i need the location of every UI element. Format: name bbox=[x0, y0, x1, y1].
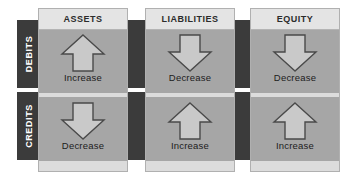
row-label-credits-text: CREDITS bbox=[24, 104, 34, 148]
column-footer-assets bbox=[39, 161, 127, 171]
arrow-down-icon bbox=[60, 101, 106, 141]
arrow-up-icon bbox=[60, 33, 106, 73]
column-header-assets: ASSETS bbox=[39, 9, 127, 30]
cell-assets-credit: Decrease bbox=[39, 97, 127, 161]
column-header-equity: EQUITY bbox=[251, 9, 339, 30]
column-assets: ASSETS Increase Decrease bbox=[38, 8, 128, 172]
column-header-liabilities: LIABILITIES bbox=[146, 9, 234, 30]
debits-credits-chart: DEBITS CREDITS ASSETS Increase Decrease bbox=[0, 0, 347, 180]
cell-label-assets-credit: Decrease bbox=[62, 140, 104, 151]
column-footer-liabilities bbox=[146, 161, 234, 171]
column-liabilities: LIABILITIES Decrease Increase bbox=[145, 8, 235, 172]
row-label-debits-text: DEBITS bbox=[24, 36, 34, 73]
cell-equity-debit: Decrease bbox=[251, 30, 339, 93]
column-footer-equity bbox=[251, 161, 339, 171]
arrow-up-icon bbox=[167, 101, 213, 141]
cell-liabilities-credit: Increase bbox=[146, 97, 234, 161]
cell-equity-credit: Increase bbox=[251, 97, 339, 161]
arrow-down-icon bbox=[272, 33, 318, 73]
cell-label-assets-debit: Increase bbox=[64, 72, 102, 83]
cell-assets-debit: Increase bbox=[39, 30, 127, 93]
cell-label-liabilities-debit: Decrease bbox=[169, 72, 211, 83]
cell-liabilities-debit: Decrease bbox=[146, 30, 234, 93]
cell-label-equity-credit: Increase bbox=[276, 140, 314, 151]
cell-label-liabilities-credit: Increase bbox=[171, 140, 209, 151]
column-equity: EQUITY Decrease Increase bbox=[250, 8, 340, 172]
cell-label-equity-debit: Decrease bbox=[274, 72, 316, 83]
arrow-up-icon bbox=[272, 101, 318, 141]
arrow-down-icon bbox=[167, 33, 213, 73]
